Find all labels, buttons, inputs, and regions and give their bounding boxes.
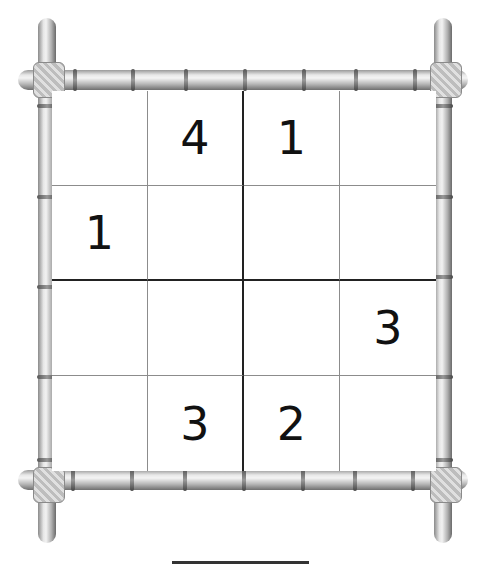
bamboo-node bbox=[243, 69, 247, 91]
grid-cell[interactable] bbox=[148, 281, 244, 376]
grid-cell[interactable] bbox=[340, 376, 436, 471]
grid-cell[interactable] bbox=[52, 376, 148, 471]
rope-knot-icon bbox=[33, 467, 65, 503]
grid-cell[interactable] bbox=[52, 91, 148, 186]
bamboo-node bbox=[353, 469, 357, 491]
bamboo-node bbox=[433, 375, 453, 379]
bamboo-node bbox=[242, 469, 246, 491]
grid-cell[interactable] bbox=[340, 186, 436, 281]
bamboo-node bbox=[183, 469, 187, 491]
grid-cell[interactable]: 3 bbox=[148, 376, 244, 471]
bamboo-node bbox=[71, 469, 75, 491]
grid-cell[interactable] bbox=[148, 186, 244, 281]
bamboo-node bbox=[130, 469, 134, 491]
grid-cell[interactable] bbox=[244, 281, 340, 376]
grid-cell[interactable] bbox=[340, 91, 436, 186]
grid-cell[interactable] bbox=[52, 281, 148, 376]
grid-cell[interactable]: 3 bbox=[340, 281, 436, 376]
bamboo-node bbox=[354, 69, 358, 91]
bamboo-node bbox=[73, 69, 77, 91]
bamboo-node bbox=[433, 275, 453, 279]
bamboo-node bbox=[411, 469, 415, 491]
bamboo-node bbox=[301, 469, 305, 491]
bamboo-node bbox=[413, 69, 417, 91]
bamboo-node bbox=[131, 69, 135, 91]
bamboo-node bbox=[184, 69, 188, 91]
sudoku-grid: 4 1 1 3 3 2 bbox=[52, 91, 436, 471]
grid-cell[interactable]: 1 bbox=[52, 186, 148, 281]
bamboo-node bbox=[433, 104, 453, 108]
grid-cell[interactable]: 2 bbox=[244, 376, 340, 471]
rope-knot-icon bbox=[430, 467, 462, 503]
bamboo-node bbox=[433, 458, 453, 462]
grid-cell[interactable]: 4 bbox=[148, 91, 244, 186]
bamboo-node bbox=[433, 195, 453, 199]
grid-cell[interactable]: 1 bbox=[244, 91, 340, 186]
bamboo-node bbox=[302, 69, 306, 91]
grid-cell[interactable] bbox=[244, 186, 340, 281]
